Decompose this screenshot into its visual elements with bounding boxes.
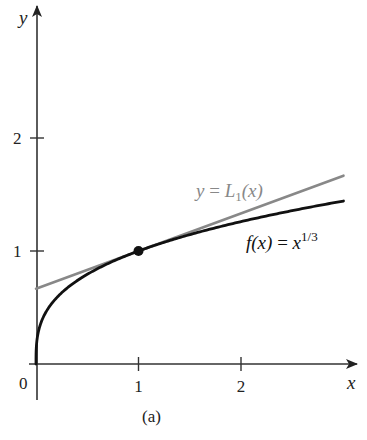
tangency-point <box>134 246 144 256</box>
x-tick-label: 1 <box>134 377 143 396</box>
tangent-line-label: y = L1(x) <box>194 180 263 204</box>
tangent-line-chart: 012 12 x y y = L1(x) f(x) = x1/3 (a) <box>0 0 367 440</box>
y-tick-label: 2 <box>13 129 22 148</box>
cube-root-curve <box>36 201 344 364</box>
x-ticks: 012 <box>19 357 245 396</box>
y-tick-label: 1 <box>13 242 22 261</box>
x-tick-label: 2 <box>237 377 246 396</box>
x-tick-label: 0 <box>19 374 28 393</box>
cube-root-label: f(x) = x1/3 <box>246 229 318 254</box>
y-ticks: 12 <box>13 129 44 261</box>
figure-caption: (a) <box>142 407 161 426</box>
axes <box>29 6 357 400</box>
y-axis-label: y <box>17 7 28 28</box>
x-axis-label: x <box>346 372 356 393</box>
